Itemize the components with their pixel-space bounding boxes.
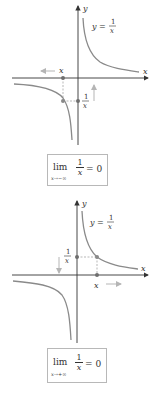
- bottom-graph-panel: y x y = 1 x x 1 x lim x→+∞ 1 x = 0: [0, 195, 157, 395]
- function-den: x: [108, 223, 112, 231]
- curve-left-branch: [13, 281, 71, 340]
- x-axis-label: x: [141, 264, 146, 273]
- point-on-curve: [61, 99, 65, 103]
- limit-equals: = 0: [85, 359, 101, 369]
- limit-fraction: 1 x: [75, 353, 83, 372]
- point-1x-den: x: [83, 102, 87, 110]
- limit-box-neg-infinity: lim x→−∞ 1 x = 0: [47, 154, 108, 186]
- point-1-over-x-on-y-axis: [75, 255, 79, 259]
- point-1-over-x-on-y-axis: [76, 99, 80, 103]
- y-axis-label: y: [81, 199, 87, 208]
- point-x-label: x: [94, 281, 99, 290]
- point-1x-num: 1: [84, 93, 88, 101]
- function-num: 1: [111, 18, 115, 26]
- point-x-on-axis: [61, 76, 65, 80]
- point-x-label: x: [59, 66, 64, 75]
- x-axis-label: x: [143, 67, 148, 76]
- function-label: y =: [89, 218, 104, 227]
- limit-box-pos-infinity: lim x→+∞ 1 x = 0: [47, 348, 107, 383]
- point-1x-den: x: [65, 257, 69, 265]
- limit-equals: = 0: [86, 164, 102, 174]
- y-axis-label: y: [82, 4, 88, 13]
- lim-word: lim: [53, 162, 67, 172]
- lim-subscript: x→+∞: [51, 371, 66, 377]
- limit-fraction: 1 x: [76, 158, 84, 177]
- point-1x-num: 1: [66, 248, 70, 256]
- function-label: y =: [91, 22, 106, 31]
- lim-subscript: x→−∞: [51, 175, 66, 181]
- function-num: 1: [109, 214, 113, 222]
- lim-word: lim: [53, 357, 67, 367]
- point-on-curve: [95, 255, 99, 259]
- function-den: x: [110, 27, 114, 35]
- point-x-on-axis: [95, 273, 99, 277]
- top-graph-panel: y x y = 1 x x 1 x lim x→−∞ 1 x = 0: [0, 0, 157, 195]
